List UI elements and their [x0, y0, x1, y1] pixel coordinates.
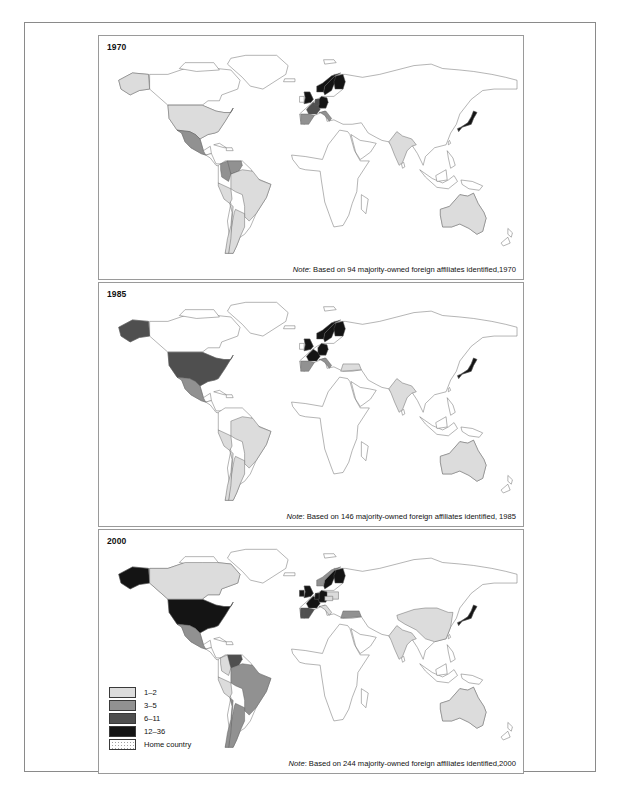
- legend-label: 1–2: [144, 687, 157, 698]
- note-body: : Based on 146 majority-owned foreign af…: [303, 512, 516, 521]
- land-nz-s: [501, 731, 510, 740]
- panel-note: Note: Based on 244 majority-owned foreig…: [289, 759, 516, 768]
- map-panel-1985: 1985 Note: Based on 146 majority-owned f…: [98, 282, 524, 527]
- country-spain: [301, 114, 315, 124]
- land-svalbard: [324, 60, 337, 64]
- land-nz-n: [508, 228, 513, 237]
- legend-label: 6–11: [144, 713, 160, 724]
- panel-note: Note: Based on 94 majority-owned foreign…: [293, 265, 516, 274]
- legend-item: 12–36: [109, 725, 191, 737]
- land-iceland: [284, 573, 295, 576]
- land-hispaniola: [226, 395, 233, 398]
- country-alaska: [119, 320, 150, 342]
- country-united-states: [168, 352, 233, 386]
- land-borneo: [436, 417, 447, 429]
- land-sri: [401, 656, 404, 662]
- note-prefix: Note: [293, 265, 309, 274]
- country-japan: [458, 605, 477, 626]
- world-map-svg-1970: [99, 36, 523, 279]
- map-panel-1970: 1970 Note: Based on 94 majority-owned fo…: [98, 35, 524, 280]
- country-alaska: [119, 567, 150, 589]
- country-japan: [458, 111, 477, 132]
- panel-year-label: 2000: [107, 536, 126, 546]
- land-canada-n: [150, 316, 240, 353]
- land-borneo: [436, 664, 447, 676]
- note-prefix: Note: [286, 512, 302, 521]
- land-cuba: [214, 637, 227, 641]
- page-frame: 1970 Note: Based on 94 majority-owned fo…: [24, 22, 596, 772]
- panel-year-label: 1985: [107, 289, 126, 299]
- country-canada: [150, 563, 240, 600]
- world-map-svg-1985: [99, 283, 523, 526]
- legend-item: 1–2: [109, 686, 191, 698]
- land-hispaniola: [226, 642, 233, 645]
- land-nz-n: [508, 722, 513, 731]
- legend-item: 3–5: [109, 699, 191, 711]
- land-cuba: [214, 390, 227, 394]
- land-nz-s: [501, 237, 510, 246]
- land-png: [461, 427, 483, 437]
- land-canada-n: [150, 69, 240, 106]
- land-taiwan: [448, 140, 450, 144]
- legend-item: 6–11: [109, 712, 191, 724]
- note-body: : Based on 244 majority-owned foreign af…: [305, 759, 516, 768]
- country-spain: [301, 361, 315, 371]
- country-australia: [440, 193, 486, 234]
- land-png: [461, 180, 483, 190]
- land-nz-s: [501, 484, 510, 493]
- land-sri: [401, 162, 404, 168]
- land-madagascar: [361, 195, 368, 214]
- country-netherlands: [314, 593, 319, 599]
- land-ireland: [300, 96, 305, 102]
- country-netherlands: [314, 99, 319, 105]
- legend-label: 12–36: [144, 726, 165, 737]
- country-united-states: [168, 599, 233, 633]
- land-philippines: [447, 398, 455, 416]
- country-united-kingdom: [304, 339, 313, 351]
- country-ireland: [300, 590, 305, 596]
- country-turkey: [341, 611, 362, 618]
- legend-swatch: [109, 726, 136, 737]
- country-japan: [458, 358, 477, 379]
- land-nz-n: [508, 475, 513, 484]
- land-taiwan: [448, 387, 450, 391]
- legend-swatch: [109, 687, 136, 698]
- panel-note: Note: Based on 146 majority-owned foreig…: [286, 512, 516, 521]
- legend-label: 3–5: [144, 700, 157, 711]
- world-map-1985: [99, 283, 523, 526]
- legend-swatch: [109, 700, 136, 711]
- country-united-kingdom: [304, 586, 313, 598]
- land-madagascar: [361, 442, 368, 461]
- panel-year-label: 1970: [107, 42, 126, 52]
- land-philippines: [447, 151, 455, 169]
- land-png: [461, 674, 483, 684]
- land-cuba: [214, 143, 227, 147]
- land-svalbard: [324, 307, 337, 311]
- land-taiwan: [448, 634, 450, 638]
- country-portugal: [301, 609, 304, 616]
- land-svalbard: [324, 554, 337, 558]
- country-australia: [440, 687, 486, 728]
- legend-swatch: [109, 739, 136, 750]
- country-turkey: [341, 364, 362, 371]
- country-alaska: [119, 73, 150, 95]
- world-map-1970: [99, 36, 523, 279]
- map-legend: 1–23–56–1112–36Home country: [109, 686, 191, 751]
- map-panel-2000: 2000 1–23–56–1112–36Home country Note: B…: [98, 529, 524, 774]
- land-sri: [401, 409, 404, 415]
- note-body: : Based on 94 majority-owned foreign aff…: [309, 265, 516, 274]
- note-prefix: Note: [289, 759, 305, 768]
- country-united-kingdom: [304, 92, 313, 104]
- land-madagascar: [361, 689, 368, 708]
- country-australia: [440, 440, 486, 481]
- land-ireland: [300, 343, 305, 349]
- country-czech-republic: [325, 596, 333, 600]
- land-borneo: [436, 170, 447, 182]
- legend-swatch: [109, 713, 136, 724]
- country-united-states: [168, 105, 233, 139]
- land-iceland: [284, 326, 295, 329]
- legend-label: Home country: [144, 739, 191, 750]
- land-iceland: [284, 79, 295, 82]
- land-hispaniola: [226, 148, 233, 151]
- land-philippines: [447, 645, 455, 663]
